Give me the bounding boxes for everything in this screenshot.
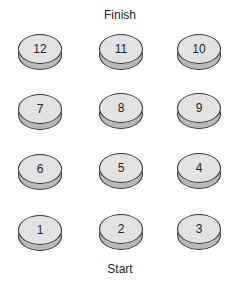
disk-number: 10 bbox=[192, 42, 205, 56]
disk-number: 3 bbox=[196, 222, 203, 236]
disk-face: 1 bbox=[18, 215, 62, 245]
disk-3: 3 bbox=[177, 214, 221, 250]
disk-face: 8 bbox=[99, 93, 143, 123]
disk-face: 10 bbox=[177, 34, 221, 64]
disk-10: 10 bbox=[177, 34, 221, 70]
disk-face: 6 bbox=[18, 154, 62, 184]
disk-number: 1 bbox=[37, 223, 44, 237]
disk-number: 7 bbox=[37, 102, 44, 116]
disk-2: 2 bbox=[99, 214, 143, 250]
disk-face: 12 bbox=[18, 34, 62, 64]
disk-5: 5 bbox=[99, 153, 143, 189]
disk-face: 2 bbox=[99, 214, 143, 244]
disk-4: 4 bbox=[177, 153, 221, 189]
disk-number: 12 bbox=[33, 42, 46, 56]
finish-label: Finish bbox=[0, 8, 240, 22]
disk-12: 12 bbox=[18, 34, 62, 70]
disk-face: 7 bbox=[18, 94, 62, 124]
disk-face: 5 bbox=[99, 153, 143, 183]
disk-1: 1 bbox=[18, 215, 62, 251]
disk-6: 6 bbox=[18, 154, 62, 190]
disk-face: 11 bbox=[99, 34, 143, 64]
disk-7: 7 bbox=[18, 94, 62, 130]
disk-number: 6 bbox=[37, 162, 44, 176]
disk-number: 5 bbox=[118, 161, 125, 175]
start-label: Start bbox=[0, 262, 240, 276]
disk-face: 3 bbox=[177, 214, 221, 244]
disk-9: 9 bbox=[177, 93, 221, 129]
disk-number: 11 bbox=[115, 42, 127, 56]
disk-number: 4 bbox=[196, 161, 203, 175]
disk-8: 8 bbox=[99, 93, 143, 129]
disk-face: 9 bbox=[177, 93, 221, 123]
disk-number: 8 bbox=[118, 101, 125, 115]
disk-11: 11 bbox=[99, 34, 143, 70]
disk-face: 4 bbox=[177, 153, 221, 183]
disk-number: 9 bbox=[196, 101, 203, 115]
disk-number: 2 bbox=[118, 222, 125, 236]
